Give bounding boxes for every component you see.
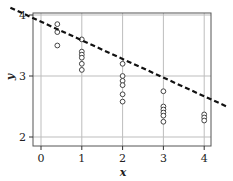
data-point xyxy=(55,30,60,35)
y-tick-label: 3 xyxy=(19,70,26,83)
data-point xyxy=(120,83,125,88)
x-tick-label: 2 xyxy=(119,152,126,165)
x-tick-label: 3 xyxy=(160,152,167,165)
data-point xyxy=(120,92,125,97)
data-point xyxy=(55,43,60,48)
data-point xyxy=(79,68,84,73)
regression-line xyxy=(10,8,226,107)
data-point xyxy=(120,74,125,79)
data-point xyxy=(79,61,84,66)
data-point xyxy=(161,113,166,118)
data-point xyxy=(120,99,125,104)
x-tick-label: 4 xyxy=(201,152,208,165)
data-point xyxy=(55,22,60,27)
scatter-chart: 01234 234 x y xyxy=(0,0,233,181)
x-tick-label: 1 xyxy=(78,152,85,165)
data-point xyxy=(120,61,125,66)
data-point xyxy=(161,89,166,94)
data-point xyxy=(79,55,84,60)
x-axis-ticks: 01234 xyxy=(38,146,208,165)
x-axis-label: x xyxy=(119,166,127,179)
data-point xyxy=(161,119,166,124)
y-axis-ticks: 234 xyxy=(19,9,33,144)
y-tick-label: 2 xyxy=(19,131,26,144)
data-point xyxy=(202,118,207,123)
x-tick-label: 0 xyxy=(38,152,45,165)
data-points xyxy=(55,22,207,124)
y-axis-label: y xyxy=(4,72,17,81)
